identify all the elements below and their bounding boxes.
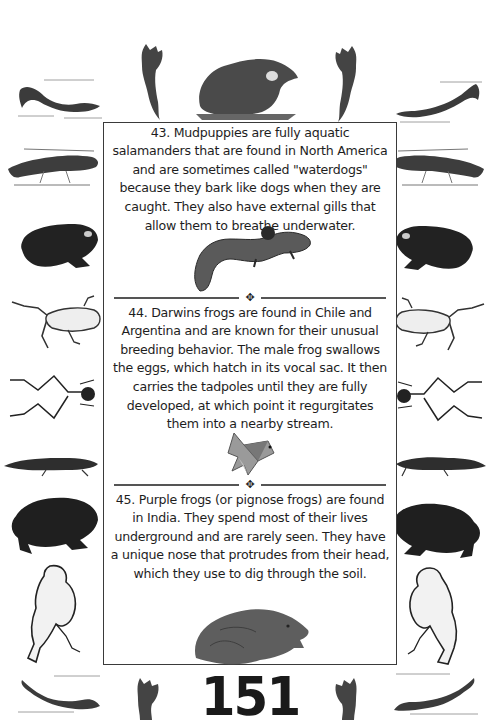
frog-skeleton-illustration-left <box>4 370 98 424</box>
toad-illustration-right-1 <box>394 220 476 274</box>
frog-illustration-right-1 <box>394 294 488 358</box>
axolotl-illustration-top-left <box>132 40 172 122</box>
salamander-illustration-top-left <box>14 68 104 120</box>
ornament-icon: ✥ <box>245 479 254 491</box>
toad-illustration-left-2 <box>6 490 100 556</box>
mudpuppy-illustration <box>186 225 314 297</box>
frog-skeleton-illustration-right <box>394 372 488 426</box>
salamander-illustration-top-right <box>390 74 484 126</box>
frog-sitting-illustration-right <box>404 564 474 668</box>
ornament-icon: ✥ <box>245 292 254 304</box>
toad-illustration-right-2 <box>392 496 484 560</box>
fact-45-text: 45. Purple frogs (or pignose frogs) are … <box>110 491 390 584</box>
newt-illustration-left-1 <box>4 143 100 189</box>
purple-frog-illustration <box>190 600 312 666</box>
section-divider-2: ✥ <box>114 480 386 490</box>
newt-illustration-right-2 <box>392 452 488 478</box>
bullfrog-illustration-top <box>192 50 302 122</box>
section-divider-1: ✥ <box>114 293 386 303</box>
toad-illustration-left-1 <box>18 218 100 272</box>
fact-43-text: 43. Mudpuppies are fully aquatic salaman… <box>110 124 390 236</box>
frog-illustration-left-1 <box>8 292 102 356</box>
facts-card: 43. Mudpuppies are fully aquatic salaman… <box>103 122 397 665</box>
axolotl-illustration-top-right <box>326 42 366 122</box>
frog-sitting-illustration-left <box>22 562 88 666</box>
newt-illustration-left-2 <box>2 452 100 478</box>
page-number: 151 <box>0 671 500 720</box>
fact-44-text: 44. Darwins frogs are found in Chile and… <box>110 304 390 434</box>
origami-frog-illustration <box>224 427 280 479</box>
newt-illustration-right-1 <box>392 143 488 189</box>
